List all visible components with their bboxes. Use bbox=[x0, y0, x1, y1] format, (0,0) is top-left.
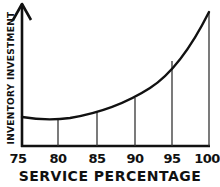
chart-canvas bbox=[0, 0, 220, 187]
x-tick-85: 85 bbox=[88, 151, 105, 166]
x-tick-80: 80 bbox=[49, 151, 66, 166]
x-tick-90: 90 bbox=[126, 151, 143, 166]
x-tick-100: 100 bbox=[194, 151, 220, 166]
x-tick-95: 95 bbox=[163, 151, 180, 166]
y-axis-label: INVENTORY INVESTMENT bbox=[6, 12, 16, 145]
x-tick-75: 75 bbox=[9, 151, 26, 166]
investment-curve bbox=[22, 12, 209, 119]
x-axis-label: SERVICE PERCENTAGE bbox=[0, 168, 220, 184]
